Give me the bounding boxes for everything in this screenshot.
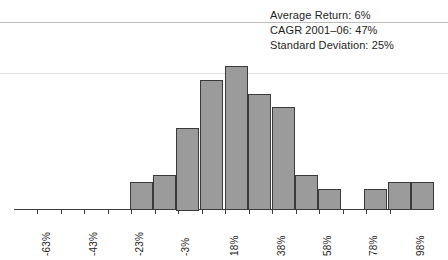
x-axis-label: 38%: [276, 235, 287, 256]
x-axis-label: 78%: [368, 235, 379, 256]
x-axis-tick: [366, 210, 367, 214]
histogram-bar: [272, 107, 295, 210]
histogram-bar: [200, 80, 223, 210]
x-axis-tick: [272, 210, 273, 214]
x-axis-label: -63%: [41, 232, 52, 256]
x-axis-tick: [131, 210, 132, 214]
x-axis-tick: [249, 210, 250, 214]
x-axis-label: -43%: [88, 232, 99, 256]
x-axis-label: -23%: [134, 232, 145, 256]
histogram-bar: [318, 189, 341, 210]
x-axis-tick: [155, 210, 156, 214]
x-axis-tick: [202, 210, 203, 214]
x-axis-tick: [343, 210, 344, 214]
histogram-bar: [248, 94, 271, 210]
x-axis-tick: [319, 210, 320, 214]
histogram-bar: [295, 175, 318, 210]
histogram-bar: [411, 182, 434, 210]
x-axis-tick: [84, 210, 85, 214]
x-axis-label: 98%: [415, 235, 426, 256]
x-axis-tick: [61, 210, 62, 214]
x-axis-tick: [225, 210, 226, 214]
histogram-bar: [364, 189, 387, 210]
x-axis-tick: [108, 210, 109, 214]
x-axis-label: 58%: [322, 235, 333, 256]
histogram-chart: Average Return: 6% CAGR 2001–06: 47% Sta…: [0, 0, 448, 260]
x-axis-tick: [37, 210, 38, 214]
histogram-bar: [130, 182, 153, 210]
x-axis-label: -3%: [180, 238, 191, 256]
histogram-bar: [225, 66, 248, 210]
x-axis-tick: [390, 210, 391, 214]
histogram-bar: [176, 128, 199, 211]
histogram-bar: [388, 182, 411, 210]
x-axis-tick: [296, 210, 297, 214]
histogram-bar: [153, 175, 176, 210]
plot-area: -63%-43%-23%-3%18%38%58%78%98%: [0, 0, 448, 260]
x-axis-label: 18%: [229, 235, 240, 256]
